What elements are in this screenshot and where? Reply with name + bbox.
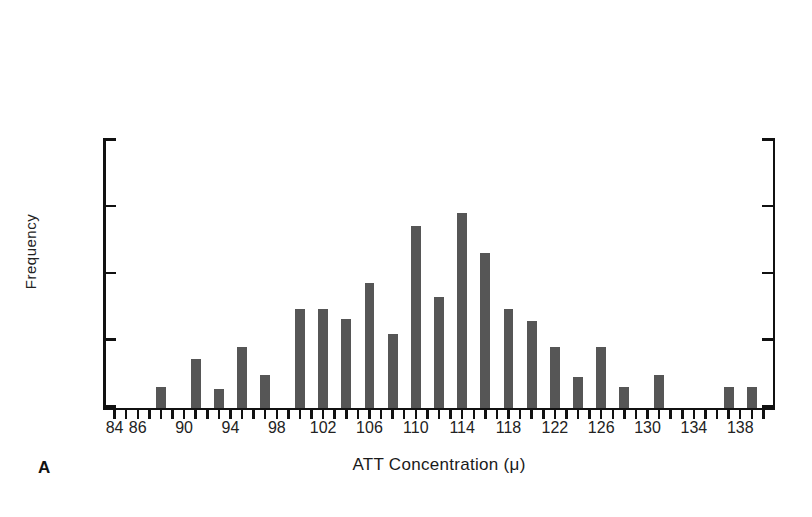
x-axis-tick <box>113 410 116 419</box>
x-axis-tick <box>449 410 452 419</box>
histogram-bar <box>295 309 305 408</box>
x-axis-tick <box>635 410 638 419</box>
x-axis-tick <box>577 410 580 419</box>
x-axis-tick <box>357 410 360 419</box>
x-axis-tick-labels: 8486909498102106110114118122126130134138 <box>103 420 775 442</box>
x-axis-tick <box>137 410 140 419</box>
x-axis-tick <box>519 410 522 419</box>
x-axis-tick-label: 98 <box>257 420 297 436</box>
x-axis-tick <box>600 410 603 419</box>
histogram-bar <box>411 226 421 408</box>
x-axis-tick <box>403 410 406 419</box>
x-axis-tick <box>727 410 730 419</box>
x-axis-tick <box>241 410 244 419</box>
histogram-bar <box>388 334 398 407</box>
x-axis-tick <box>415 410 418 419</box>
x-axis-tick <box>183 410 186 419</box>
histogram-bar <box>156 387 166 407</box>
plot-area: 01020 <box>103 140 775 410</box>
x-axis-tick-label: 90 <box>164 420 204 436</box>
x-axis-tick <box>716 410 719 419</box>
x-axis-tick <box>704 410 707 419</box>
x-axis-tick <box>287 410 290 419</box>
x-axis-tick-label: 102 <box>303 420 343 436</box>
x-axis-tick <box>507 410 510 419</box>
panel-label: A <box>38 458 50 478</box>
x-axis-tick <box>530 410 533 419</box>
x-axis-tick-label: 122 <box>535 420 575 436</box>
x-axis-tick <box>658 410 661 419</box>
x-axis-tick <box>345 410 348 419</box>
x-axis-tick-label: 106 <box>349 420 389 436</box>
x-axis-tick-label: 134 <box>674 420 714 436</box>
y-axis-title: Frequency <box>22 182 39 322</box>
histogram-bar <box>504 309 514 408</box>
x-axis-tick <box>461 410 464 419</box>
x-axis-tick <box>125 410 128 419</box>
x-axis-tick <box>588 410 591 419</box>
bar-series <box>103 141 775 408</box>
x-axis-tick-label: 114 <box>442 420 482 436</box>
x-axis-tick-label: 94 <box>210 420 250 436</box>
x-axis-tick-label: 110 <box>396 420 436 436</box>
x-axis-tick <box>368 410 371 419</box>
x-axis-tick <box>218 410 221 419</box>
x-axis-tick <box>554 410 557 419</box>
x-axis-tick <box>762 410 765 419</box>
x-axis-tick <box>148 410 151 419</box>
x-axis-title: ATT Concentration (μ) <box>103 455 775 475</box>
x-axis-tick <box>484 410 487 419</box>
x-axis-tick <box>426 410 429 419</box>
x-axis-tick <box>681 410 684 419</box>
x-axis-tick <box>565 410 568 419</box>
x-axis-tick <box>380 410 383 419</box>
x-axis-tick <box>438 410 441 419</box>
histogram-bar <box>191 359 201 407</box>
x-axis-tick <box>739 410 742 419</box>
x-axis-tick <box>542 410 545 419</box>
histogram-bar <box>260 375 270 407</box>
x-axis-tick <box>751 410 754 419</box>
x-axis-tick <box>276 410 279 419</box>
x-axis-tick <box>252 410 255 419</box>
histogram-bar <box>365 283 375 407</box>
x-axis-tick <box>473 410 476 419</box>
x-axis-tick <box>264 410 267 419</box>
x-axis-tick <box>299 410 302 419</box>
x-axis-tick <box>496 410 499 419</box>
x-axis-tick <box>160 410 163 419</box>
x-axis-tick <box>206 410 209 419</box>
x-axis-tick <box>333 410 336 419</box>
x-axis-tick <box>669 410 672 419</box>
histogram-figure: Frequency 01020 848690949810210611011411… <box>0 0 812 517</box>
histogram-bar <box>724 387 734 407</box>
histogram-bar <box>457 213 467 408</box>
histogram-bar <box>527 321 537 408</box>
x-axis-tick <box>194 410 197 419</box>
histogram-bar <box>573 377 583 408</box>
x-axis-tick <box>171 410 174 419</box>
histogram-bar <box>214 389 224 408</box>
histogram-bar <box>480 253 490 408</box>
x-axis-tick <box>623 410 626 419</box>
x-axis-tick-label: 138 <box>720 420 760 436</box>
x-axis-tick-label: 126 <box>581 420 621 436</box>
histogram-bar <box>747 387 757 407</box>
x-axis-tick <box>646 410 649 419</box>
histogram-bar <box>341 319 351 407</box>
x-axis-tick-label: 130 <box>628 420 668 436</box>
x-axis-tick <box>693 410 696 419</box>
histogram-bar <box>237 347 247 407</box>
histogram-bar <box>434 297 444 408</box>
x-axis-tick <box>229 410 232 419</box>
histogram-bar <box>654 375 664 407</box>
histogram-bar <box>550 347 560 407</box>
histogram-bar <box>596 347 606 407</box>
x-axis-tick <box>322 410 325 419</box>
x-axis-tick <box>391 410 394 419</box>
x-axis-tick <box>612 410 615 419</box>
x-axis-tick-label: 86 <box>118 420 158 436</box>
histogram-bar <box>318 309 328 408</box>
x-axis-tick <box>310 410 313 419</box>
histogram-bar <box>619 387 629 407</box>
